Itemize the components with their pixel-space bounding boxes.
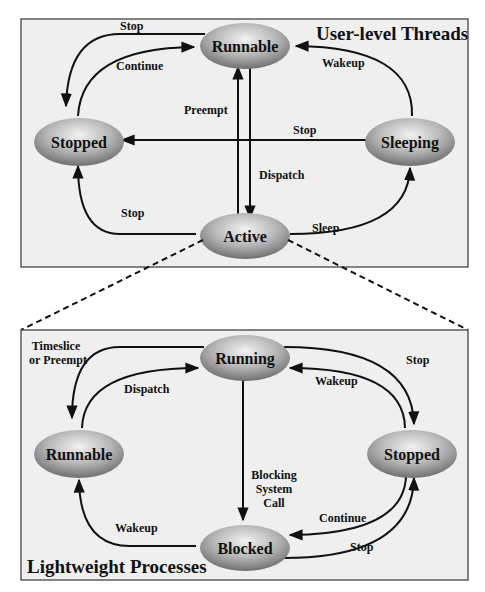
label-sleep: Sleep <box>312 221 340 235</box>
state-running: Running <box>200 335 290 381</box>
upper-panel-title: User-level Threads <box>316 23 468 44</box>
label-stop-blocked-stopped: Stop <box>350 540 374 554</box>
state-stopped-lower: Stopped <box>367 430 457 478</box>
label-stop-runnable-stopped: Stop <box>120 19 144 33</box>
state-runnable-upper: Runnable <box>200 23 290 69</box>
label-stop-running-stopped: Stop <box>406 353 430 367</box>
svg-text:Active: Active <box>223 228 267 245</box>
label-wakeup-lower: Wakeup <box>315 374 358 388</box>
svg-text:Runnable: Runnable <box>212 38 279 55</box>
label-dispatch-lower: Dispatch <box>124 382 170 396</box>
svg-text:Stopped: Stopped <box>384 446 440 464</box>
label-continue-lower: Continue <box>319 511 367 525</box>
label-stop-active-stopped: Stop <box>121 206 145 220</box>
svg-text:Blocked: Blocked <box>217 540 272 557</box>
state-blocked: Blocked <box>200 525 290 571</box>
thread-state-diagram: User-level Threads Stop Continue Wakeup … <box>0 0 485 592</box>
state-active-upper: Active <box>200 213 290 259</box>
svg-text:Runnable: Runnable <box>46 446 113 463</box>
lower-panel-title: Lightweight Processes <box>27 556 207 577</box>
svg-text:Stopped: Stopped <box>51 134 107 152</box>
state-sleeping-upper: Sleeping <box>365 118 455 166</box>
label-timeslice: Timeslice <box>32 339 81 353</box>
state-runnable-lower: Runnable <box>34 430 124 478</box>
label-dispatch: Dispatch <box>259 168 305 182</box>
lightweight-processes-panel: Lightweight Processes Timeslice or Preem… <box>21 330 468 580</box>
label-blocking: Blocking <box>251 468 296 482</box>
label-call: Call <box>263 496 285 510</box>
svg-text:Running: Running <box>215 350 275 368</box>
label-preempt: Preempt <box>184 103 228 117</box>
label-continue: Continue <box>116 59 164 73</box>
label-stop-sleeping-stopped: Stop <box>293 123 317 137</box>
label-wakeup: Wakeup <box>322 56 365 70</box>
label-or-preempt: or Preempt <box>29 353 87 367</box>
user-level-threads-panel: User-level Threads Stop Continue Wakeup … <box>21 19 468 267</box>
state-stopped-upper: Stopped <box>34 118 124 166</box>
svg-text:Sleeping: Sleeping <box>381 134 439 152</box>
label-system: System <box>256 482 293 496</box>
label-wakeup-blocked: Wakeup <box>115 521 158 535</box>
